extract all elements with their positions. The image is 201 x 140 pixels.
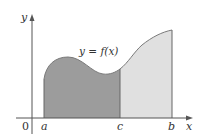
y-axis-label: y [20,11,28,24]
region-c-to-b [120,30,172,118]
x-axis-label: x [186,120,193,133]
curve-label: y = f(x) [78,45,118,57]
area-diagram: y x 0 a c b y = f(x) [0,0,201,140]
tick-label-b: b [168,120,175,133]
y-axis-arrow-icon [30,14,35,21]
origin-label: 0 [22,120,29,133]
tick-label-a: a [41,120,48,133]
diagram-svg: y x 0 a c b y = f(x) [0,0,201,140]
tick-label-c: c [117,120,123,133]
region-a-to-c [44,57,120,118]
